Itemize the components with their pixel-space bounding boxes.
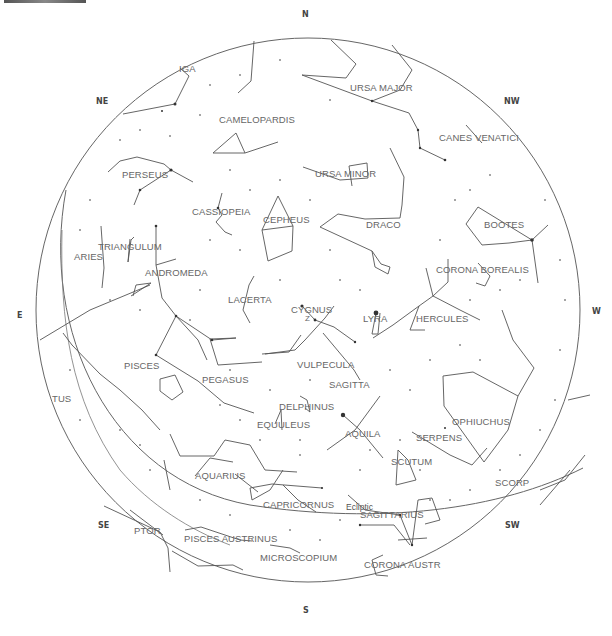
label-corona-australis[interactable]: CORONA AUSTR — [364, 559, 441, 570]
label-perseus[interactable]: PERSEUS — [122, 169, 168, 180]
label-lacerta[interactable]: LACERTA — [228, 294, 272, 305]
label-equuleus[interactable]: EQUULEUS — [257, 419, 310, 430]
ecliptic-line — [61, 190, 583, 514]
label-triangulum[interactable]: TRIANGULUM — [98, 241, 162, 252]
label-cassiopeia[interactable]: CASSIOPEIA — [192, 206, 251, 217]
direction-n: N — [302, 10, 309, 19]
label-aquarius[interactable]: AQUARIUS — [195, 470, 245, 481]
label-draco[interactable]: DRACO — [366, 219, 401, 230]
direction-sw: SW — [505, 521, 520, 530]
direction-nw: NW — [504, 97, 520, 106]
label-hercules[interactable]: HERCULES — [416, 313, 469, 324]
label-sagittarius[interactable]: SAGITTARIUS — [360, 509, 424, 520]
label-capricornus[interactable]: CAPRICORNUS — [263, 499, 334, 510]
zenith-marker: Z — [305, 314, 310, 323]
label-ophiuchus[interactable]: OPHIUCHUS — [452, 416, 510, 427]
label-serpens[interactable]: SERPENS — [416, 432, 462, 443]
label-delphinus[interactable]: DELPHINUS — [279, 401, 334, 412]
direction-s: S — [303, 606, 309, 615]
label-canes-venatici[interactable]: CANES VENATICI — [439, 132, 519, 143]
label-vulpecula[interactable]: VULPECULA — [297, 359, 354, 370]
label-bootes[interactable]: BOOTES — [484, 219, 524, 230]
label-cetus[interactable]: TUS — [52, 393, 71, 404]
label-ursa-major[interactable]: URSA MAJOR — [350, 82, 413, 93]
label-aquila[interactable]: AQUILA — [345, 428, 380, 439]
label-cygnus[interactable]: CYGNUS — [291, 304, 332, 315]
label-sculptor[interactable]: PTOR — [134, 525, 161, 536]
label-corona-borealis[interactable]: CORONA BOREALIS — [436, 264, 529, 275]
direction-se: SE — [98, 521, 109, 530]
label-cepheus[interactable]: CEPHEUS — [263, 214, 310, 225]
label-auriga[interactable]: IGA — [179, 63, 196, 74]
label-ursa-minor[interactable]: URSA MINOR — [315, 168, 376, 179]
label-microscopium[interactable]: MICROSCOPIUM — [260, 552, 337, 563]
label-lyra[interactable]: LYRA — [363, 313, 388, 324]
label-camelopardis[interactable]: CAMELOPARDIS — [219, 114, 295, 125]
direction-e: E — [17, 311, 22, 320]
label-scorpius[interactable]: SCORP — [495, 477, 529, 488]
direction-w: W — [592, 307, 601, 316]
label-pisces[interactable]: PISCES — [124, 360, 159, 371]
label-aries[interactable]: ARIES — [74, 251, 103, 262]
label-scutum[interactable]: SCUTUM — [391, 456, 432, 467]
label-sagitta[interactable]: SAGITTA — [329, 379, 370, 390]
label-pegasus[interactable]: PEGASUS — [202, 374, 249, 385]
label-andromeda[interactable]: ANDROMEDA — [145, 267, 208, 278]
direction-ne: NE — [96, 97, 108, 106]
label-pisces-austrinus[interactable]: PISCES AUSTRINUS — [184, 533, 277, 544]
